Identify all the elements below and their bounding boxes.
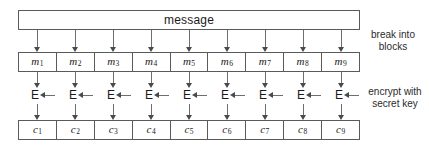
cipher-block-7-label: c7	[260, 124, 269, 137]
key-input-arrowhead-8	[306, 92, 311, 98]
break-arrow-line-6	[227, 30, 228, 48]
annotation-encrypt-with-secret-key: encrypt with secret key	[362, 86, 428, 110]
cipher-block-8-label: c8	[298, 124, 307, 137]
break-arrow-line-4	[151, 30, 152, 48]
message-block-4: m4	[133, 53, 171, 71]
break-arrow-line-9	[341, 30, 342, 48]
cipher-block-1-label: c1	[33, 124, 42, 137]
key-input-arrowhead-2	[78, 92, 83, 98]
message-block-5-label: m5	[183, 56, 195, 69]
encrypt-unit-4: E	[132, 86, 170, 104]
message-block-9-label: m9	[334, 56, 346, 69]
key-input-arrowhead-1	[40, 92, 45, 98]
message-block-2: m2	[57, 53, 95, 71]
message-block-7: m7	[246, 53, 284, 71]
cipher-block-3: c3	[95, 121, 133, 139]
break-arrow-line-8	[303, 30, 304, 48]
cipher-block-row: c1c2c3c4c5c6c7c8c9	[18, 120, 360, 140]
cipher-block-1: c1	[19, 121, 57, 139]
message-block-9: m9	[322, 53, 359, 71]
encrypt-unit-label-7: E	[259, 89, 267, 101]
cipher-block-5-label: c5	[184, 124, 193, 137]
encrypt-unit-5: E	[170, 86, 208, 104]
cipher-block-2-label: c2	[71, 124, 80, 137]
message-block-3-label: m3	[107, 56, 119, 69]
cipher-block-4: c4	[133, 121, 171, 139]
encrypt-unit-label-5: E	[183, 89, 191, 101]
cipher-block-7: c7	[246, 121, 284, 139]
encrypt-unit-label-8: E	[297, 89, 305, 101]
cipher-block-8: c8	[284, 121, 322, 139]
cipher-block-6-label: c6	[222, 124, 231, 137]
message-block-7-label: m7	[259, 56, 271, 69]
encrypt-unit-3: E	[94, 86, 132, 104]
message-block-8-label: m8	[297, 56, 309, 69]
encrypt-unit-label-2: E	[69, 89, 77, 101]
annotation-encrypt-with-secret-key-line1: encrypt with	[362, 86, 428, 98]
break-arrow-line-7	[265, 30, 266, 48]
message-block-row: m1m2m3m4m5m6m7m8m9	[18, 52, 360, 72]
message-block-4-label: m4	[145, 56, 157, 69]
encrypt-unit-6: E	[208, 86, 246, 104]
message-block-8: m8	[284, 53, 322, 71]
cipher-block-6: c6	[208, 121, 246, 139]
message-label: message	[164, 14, 214, 26]
message-block-3: m3	[95, 53, 133, 71]
break-arrow-line-1	[37, 30, 38, 48]
encrypt-row: EEEEEEEEE	[18, 86, 360, 104]
annotation-break-into-blocks-line2: blocks	[360, 41, 426, 53]
encrypt-unit-9: E	[322, 86, 360, 104]
key-input-arrowhead-6	[230, 92, 235, 98]
key-input-arrowhead-3	[116, 92, 121, 98]
encrypt-unit-1: E	[18, 86, 56, 104]
annotation-break-into-blocks: break into blocks	[360, 29, 426, 53]
encrypt-unit-label-6: E	[221, 89, 229, 101]
encrypt-unit-label-3: E	[107, 89, 115, 101]
message-bar: message	[18, 10, 360, 30]
message-block-1-label: m1	[31, 56, 43, 69]
message-block-6: m6	[208, 53, 246, 71]
cipher-block-4-label: c4	[147, 124, 156, 137]
message-block-5: m5	[171, 53, 209, 71]
message-block-1: m1	[19, 53, 57, 71]
break-arrow-line-3	[113, 30, 114, 48]
annotation-encrypt-with-secret-key-line2: secret key	[362, 98, 428, 110]
encrypt-unit-7: E	[246, 86, 284, 104]
key-input-arrowhead-4	[154, 92, 159, 98]
cipher-block-5: c5	[171, 121, 209, 139]
break-arrow-line-2	[75, 30, 76, 48]
encrypt-unit-label-4: E	[145, 89, 153, 101]
key-input-arrowhead-9	[344, 92, 349, 98]
encrypt-unit-2: E	[56, 86, 94, 104]
cipher-block-9-label: c9	[336, 124, 345, 137]
break-arrow-line-5	[189, 30, 190, 48]
key-input-arrowhead-7	[268, 92, 273, 98]
key-input-arrowhead-5	[192, 92, 197, 98]
cipher-block-3-label: c3	[109, 124, 118, 137]
cipher-block-9: c9	[322, 121, 359, 139]
block-cipher-diagram: message m1m2m3m4m5m6m7m8m9 EEEEEEEEE c1c…	[0, 0, 429, 147]
encrypt-unit-label-1: E	[31, 89, 39, 101]
cipher-block-2: c2	[57, 121, 95, 139]
encrypt-unit-8: E	[284, 86, 322, 104]
message-block-2-label: m2	[69, 56, 81, 69]
annotation-break-into-blocks-line1: break into	[360, 29, 426, 41]
message-block-6-label: m6	[221, 56, 233, 69]
encrypt-unit-label-9: E	[335, 89, 343, 101]
